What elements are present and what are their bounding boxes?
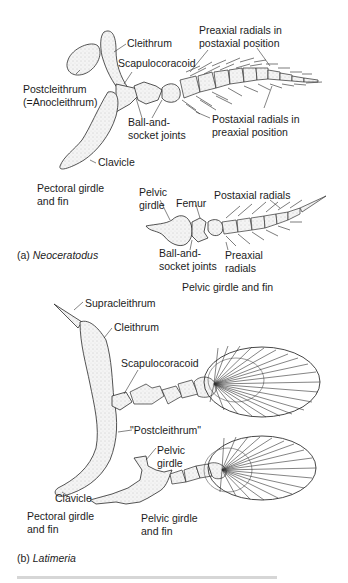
label-postaxial-radials-a: Postaxial radials [214,189,290,201]
neoceratodus-pectoral-fin-axis [180,68,318,98]
panel-a-tag: (a) [17,249,30,261]
label-pelvic-girdle-a-line2: girdle [139,199,165,211]
panel-a-species: Neoceratodus [33,249,98,261]
label-clavicle-b: Clavicle [55,492,92,504]
label-preaxial-in-postaxial-line1: Preaxial radials in [199,24,282,36]
label-postaxial-in-preaxial-line1: Postaxial radials in [212,113,300,125]
neoceratodus-pelvic-fin [222,196,326,234]
caption-pelvic-b-line1: Pelvic girdle [141,512,198,524]
label-ball-socket-a-pelvic-line1: Ball-and- [159,247,201,259]
label-preaxial-in-postaxial-line2: postaxial position [199,37,280,49]
label-ball-socket-a-pectoral-line2: socket joints [128,129,186,141]
caption-pelvic-b-line2: and fin [141,525,173,537]
panel-b-species: Latimeria [33,552,76,564]
neoceratodus-pelvic-girdle [146,216,223,246]
caption-pectoral-a-line1: Pectoral girdle [37,182,104,194]
label-cleithrum-b: Cleithrum [114,321,159,333]
label-pelvic-girdle-a-line1: Pelvic [139,186,167,198]
figure-caption-truncated [17,576,277,579]
label-femur-a: Femur [176,197,206,209]
label-clavicle-a: Clavicle [98,156,135,168]
label-scapulocoracoid-b: Scapulocoracoid [121,357,199,369]
latimeria-pectoral-fin-axis [130,377,216,404]
label-anocleithrum-a: (=Anocleithrum) [23,96,97,108]
label-supracleithrum-b: Supracleithrum [85,297,156,309]
caption-pectoral-b-line1: Pectoral girdle [27,510,94,522]
panel-a-title: (a) Neoceratodus [17,249,98,261]
panel-b-title: (b) Latimeria [17,552,76,564]
caption-pectoral-a-line2: and fin [37,195,69,207]
label-cleithrum-a: Cleithrum [127,37,172,49]
caption-pelvic-a: Pelvic girdle and fin [182,281,273,293]
label-preaxial-radials-a-line2: radials [225,262,256,274]
label-scapulocoracoid-a: Scapulocoracoid [118,57,196,69]
latimeria-pectoral-fin-rays [204,346,320,417]
label-preaxial-radials-a-line1: Preaxial [225,249,263,261]
label-pelvic-girdle-b-line1: Pelvic [157,444,185,456]
label-ball-socket-a-pelvic-line2: socket joints [159,260,217,272]
caption-pectoral-b-line2: and fin [27,523,59,535]
label-postcleithrum-a: Postcleithrum [23,83,87,95]
label-ball-socket-a-pectoral-line1: Ball-and- [128,116,170,128]
label-pelvic-girdle-b-line2: girdle [157,457,183,469]
panel-b-tag: (b) [17,552,30,564]
label-postcleithrum-b: "Postcleithrum" [130,424,201,436]
label-postaxial-in-preaxial-line2: preaxial position [212,126,288,138]
